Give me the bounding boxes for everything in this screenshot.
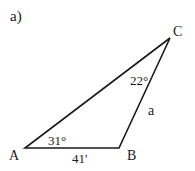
angle-a-label: 31°: [48, 134, 66, 147]
side-ab-label: 41': [72, 152, 87, 165]
part-label: a): [10, 9, 22, 24]
side-bc-label: a: [148, 104, 154, 118]
angle-c-label: 22°: [130, 74, 148, 87]
triangle-shape: [0, 0, 195, 171]
vertex-label-a: A: [9, 149, 19, 163]
vertex-label-b: B: [127, 149, 136, 163]
triangle-diagram: a) C A B 22° 31° a 41': [0, 0, 195, 171]
vertex-label-c: C: [173, 25, 182, 39]
